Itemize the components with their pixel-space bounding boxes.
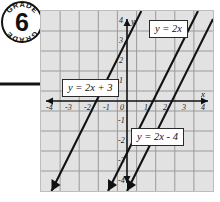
x-tick-0: 0 <box>120 104 124 112</box>
y-tick--3: -3 <box>118 157 125 165</box>
equation-label-y-2x: y = 2x <box>149 20 188 38</box>
grade-badge: GRADE GRADE 6 <box>1 1 43 43</box>
x-tick--1: -1 <box>103 104 110 112</box>
x-tick-1: 1 <box>144 104 148 112</box>
equation-label-y-2x-minus-4: y = 2x - 4 <box>131 128 184 146</box>
x-tick-2: 2 <box>163 104 167 112</box>
plotted-lines <box>41 11 213 191</box>
x-axis-label: x <box>201 90 205 99</box>
x-tick--4: -4 <box>46 104 53 112</box>
equation-label-y-2x-plus-3: y = 2x + 3 <box>62 79 119 97</box>
badge-number: 6 <box>1 1 43 43</box>
y-tick-3: 3 <box>119 37 123 45</box>
y-axis-label: y <box>131 17 135 26</box>
line-y-2x-plus-3 <box>52 11 142 191</box>
y-tick--1: -1 <box>118 117 125 125</box>
y-tick-1: 1 <box>119 77 123 85</box>
y-tick--2: -2 <box>118 137 125 145</box>
x-tick-3: 3 <box>182 104 186 112</box>
coordinate-plane: -4 -3 -2 -1 0 1 2 3 4 4 3 2 1 -1 -2 -3 -… <box>40 10 214 192</box>
x-tick--2: -2 <box>84 104 91 112</box>
y-tick-4: 4 <box>119 17 123 25</box>
y-tick--4: -4 <box>118 177 125 185</box>
x-tick--3: -3 <box>65 104 72 112</box>
y-tick-2: 2 <box>119 57 123 65</box>
x-tick-4: 4 <box>201 104 205 112</box>
